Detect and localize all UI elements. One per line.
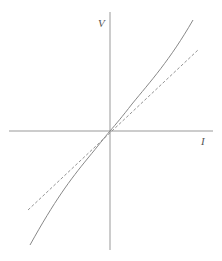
y-axis-label: V <box>98 17 105 29</box>
iv-diagram: V I <box>0 0 222 261</box>
tangent-line <box>28 50 198 210</box>
characteristic-curve <box>30 20 193 245</box>
plot-area <box>0 0 222 261</box>
x-axis-label: I <box>201 135 205 147</box>
